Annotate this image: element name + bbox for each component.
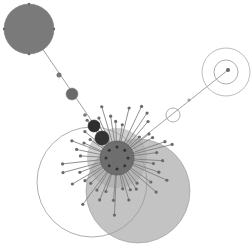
spoke-tip-node bbox=[86, 119, 89, 122]
spoke-tip-node bbox=[145, 111, 148, 114]
mid-node-node bbox=[66, 88, 78, 100]
hub-inner-dot bbox=[108, 149, 111, 152]
spoke-tip-node bbox=[135, 182, 138, 185]
spoke-tip-node bbox=[95, 189, 98, 192]
spoke-tip-node bbox=[140, 105, 143, 108]
spoke-tip-node bbox=[129, 188, 132, 191]
spoke-tip-node bbox=[149, 180, 152, 183]
spoke-tip-node bbox=[121, 123, 124, 126]
spoke-tip-node bbox=[79, 154, 82, 157]
spoke-tip-node bbox=[78, 171, 81, 174]
top-left-node-node bbox=[4, 4, 54, 54]
spoke-tip-node bbox=[171, 143, 174, 146]
spoke-tip-node bbox=[138, 135, 141, 138]
spoke-tip-node bbox=[154, 190, 157, 193]
spoke-tip-node bbox=[157, 171, 160, 174]
spoke-tip-node bbox=[61, 171, 64, 174]
spoke-tip-node bbox=[165, 179, 168, 182]
nodes bbox=[3, 3, 250, 175]
right-center-dot-node bbox=[226, 68, 230, 72]
perimeter-marker bbox=[53, 28, 55, 30]
small-node-2-node bbox=[83, 113, 87, 117]
hub-inner-dot bbox=[116, 168, 119, 171]
dark-node-2-node bbox=[95, 131, 109, 145]
spoke-tip-node bbox=[109, 115, 112, 118]
spoke-tip-node bbox=[71, 182, 74, 185]
network-diagram bbox=[0, 0, 251, 245]
dot-line-node bbox=[188, 99, 191, 102]
spoke-tip-node bbox=[70, 139, 73, 142]
spoke-tip-node bbox=[146, 120, 149, 123]
spoke-tip-node bbox=[82, 141, 85, 144]
spoke-tip-node bbox=[163, 140, 166, 143]
hub-inner-dot bbox=[105, 157, 108, 160]
perimeter-marker bbox=[3, 28, 5, 30]
spoke-tip-node bbox=[114, 120, 117, 123]
spoke-tip-node bbox=[89, 182, 92, 185]
spoke-tip-node bbox=[89, 138, 92, 141]
small-node-1-node bbox=[57, 73, 62, 78]
spoke-tip-node bbox=[100, 105, 103, 108]
spoke-tip-node bbox=[83, 179, 86, 182]
spoke-tip-node bbox=[152, 162, 155, 165]
spoke-tip-node bbox=[98, 198, 101, 201]
spoke-tip-node bbox=[61, 162, 64, 165]
perimeter-marker bbox=[28, 3, 30, 5]
spoke-tip-node bbox=[97, 116, 100, 119]
spoke-tip-node bbox=[135, 187, 138, 190]
spoke-tip-node bbox=[147, 132, 150, 135]
spoke-tip-node bbox=[151, 136, 154, 139]
spoke-tip-node bbox=[75, 148, 78, 151]
spoke-tip-node bbox=[121, 187, 124, 190]
spoke-tip-node bbox=[128, 106, 131, 109]
spoke-tip-node bbox=[112, 199, 115, 202]
spoke-tip-node bbox=[104, 190, 107, 193]
ring-small-node bbox=[166, 108, 180, 122]
spoke-tip-node bbox=[83, 130, 86, 133]
perimeter-marker bbox=[28, 53, 30, 55]
spoke-tip-node bbox=[113, 214, 116, 217]
hub-inner-dot bbox=[108, 164, 111, 167]
hub-inner-dot bbox=[123, 164, 126, 167]
dark-node-1-node bbox=[88, 120, 100, 132]
spoke-tip-node bbox=[81, 203, 84, 206]
hub-inner-dot bbox=[127, 157, 130, 160]
spoke-tip-node bbox=[161, 159, 164, 162]
hub-inner-dot bbox=[116, 146, 119, 149]
spoke-tip-node bbox=[127, 198, 130, 201]
spoke-tip-node bbox=[155, 151, 158, 154]
hub-inner-dot bbox=[123, 149, 126, 152]
